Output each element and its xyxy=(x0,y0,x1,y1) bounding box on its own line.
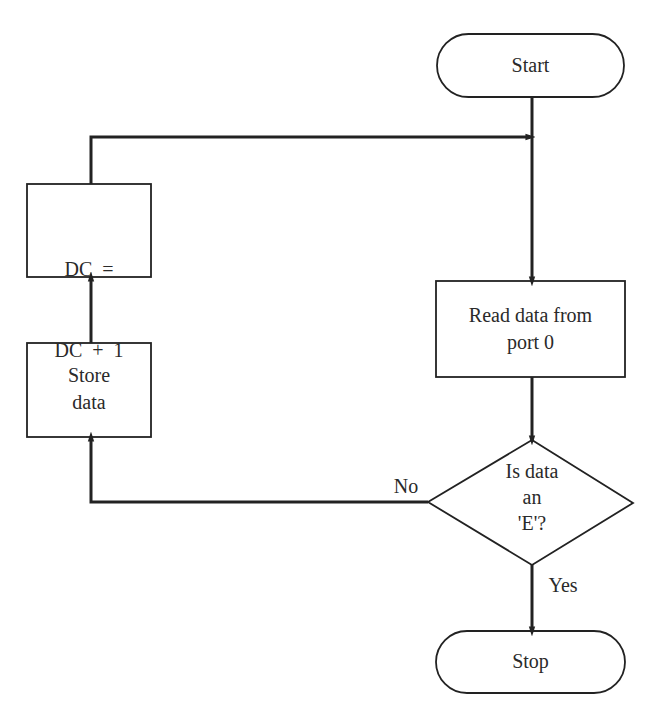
read-data-label: Read data from port 0 xyxy=(436,302,625,356)
decision-line-1: Is data xyxy=(472,458,592,484)
store-label: Store data xyxy=(27,362,151,416)
decision-line-3: 'E'? xyxy=(472,510,592,536)
read-line-2: port 0 xyxy=(436,329,625,356)
edge-increment-merge xyxy=(91,137,530,184)
store-line-1: Store xyxy=(27,362,151,389)
start-label: Start xyxy=(437,52,624,79)
no-edge-label: No xyxy=(386,473,426,500)
decision-label: Is data an 'E'? xyxy=(472,458,592,536)
increment-line-1: DC = xyxy=(27,256,151,283)
decision-line-2: an xyxy=(472,484,592,510)
increment-line-2: DC + 1 xyxy=(27,337,151,364)
edge-decision-store xyxy=(91,437,428,502)
read-line-1: Read data from xyxy=(436,302,625,329)
store-line-2: data xyxy=(27,389,151,416)
yes-edge-label: Yes xyxy=(541,572,585,599)
stop-label: Stop xyxy=(436,648,625,675)
